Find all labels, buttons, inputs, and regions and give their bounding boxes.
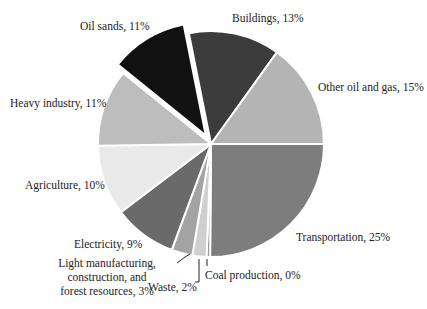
label-oil-sands: Oil sands, 11%: [80, 19, 150, 33]
label-coal-production: Coal production, 0%: [205, 268, 301, 282]
label-electricity: Electricity, 9%: [74, 237, 142, 251]
leader-light-mfg: [177, 254, 190, 263]
label-waste: Waste, 2%: [148, 280, 197, 294]
label-buildings: Buildings, 13%: [232, 11, 304, 25]
leader-waste: [195, 259, 199, 282]
label-light-manufacturing: Light manufacturing, construction, and f…: [55, 256, 159, 298]
label-other-oil-gas: Other oil and gas, 15%: [318, 80, 424, 94]
label-transportation: Transportation, 25%: [296, 230, 390, 244]
label-agriculture: Agriculture, 10%: [25, 178, 105, 192]
pie-slices: [98, 25, 324, 257]
leader-lines: [177, 254, 207, 282]
label-heavy-industry: Heavy industry, 11%: [10, 96, 106, 110]
